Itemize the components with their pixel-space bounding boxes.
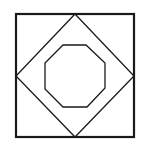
nested-shapes-figure: [0, 0, 144, 149]
diagram-canvas: [0, 0, 144, 149]
diamond: [16, 14, 134, 137]
octagon: [45, 45, 105, 107]
outer-square: [16, 14, 134, 137]
